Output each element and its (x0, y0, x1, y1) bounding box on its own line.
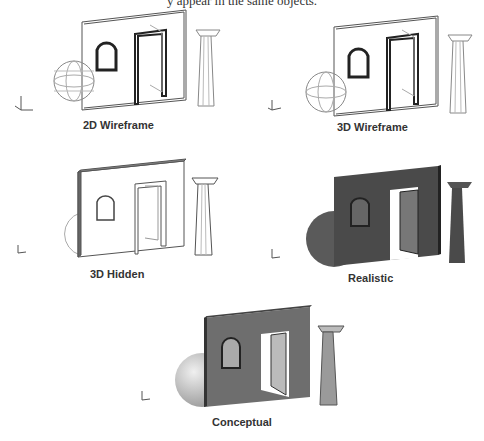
panel-3d-hidden: 3D Hidden (0, 150, 242, 295)
ucs-icon (268, 100, 281, 110)
panel-3d-wireframe: 3D Wireframe (242, 0, 484, 145)
panel-realistic: Realistic (242, 150, 484, 295)
caption-3d-wireframe: 3D Wireframe (337, 121, 408, 133)
panel-2d-wireframe: 2D Wireframe (0, 0, 242, 145)
caption-2d-wireframe: 2D Wireframe (83, 119, 154, 131)
ucs-icon (15, 96, 33, 110)
caption-realistic: Realistic (348, 272, 393, 284)
ucs-icon (18, 245, 26, 253)
caption-conceptual: Conceptual (212, 416, 272, 428)
panel-conceptual: Conceptual (120, 290, 370, 441)
ucs-icon (142, 391, 150, 400)
caption-3d-hidden: 3D Hidden (90, 268, 144, 280)
ucs-icon (272, 249, 280, 258)
